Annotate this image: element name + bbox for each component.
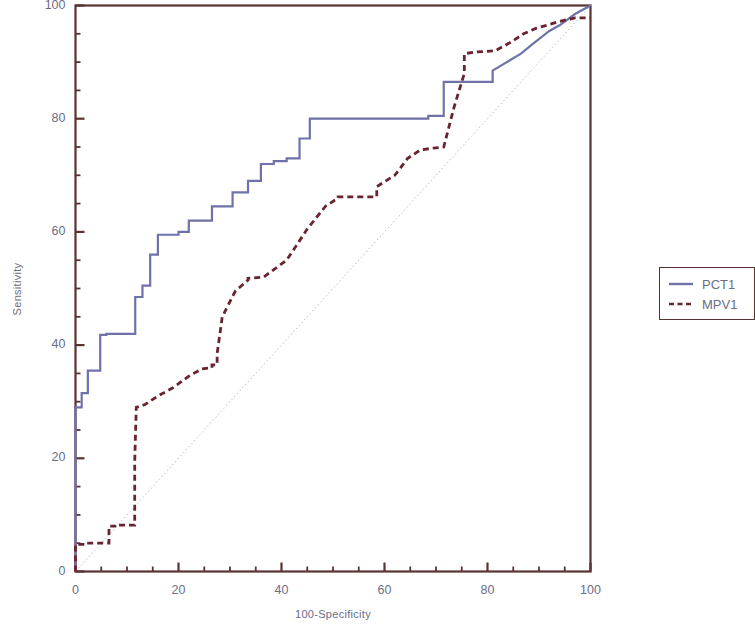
- y-axis-title: Sensitivity: [11, 239, 23, 339]
- x-tick-label: 40: [262, 583, 302, 597]
- y-tick-label: 20: [26, 450, 66, 464]
- legend-label-pct1: PCT1: [702, 278, 735, 291]
- legend-line-swatch-mpv1: [668, 298, 694, 310]
- y-tick-label: 80: [26, 111, 66, 125]
- x-tick-label: 80: [468, 583, 508, 597]
- x-axis-title: 100-Specificity: [0, 608, 666, 620]
- y-tick-label: 60: [26, 224, 66, 238]
- legend-item-pct1: PCT1: [668, 275, 735, 293]
- chart-legend: PCT1 MPV1: [659, 267, 755, 320]
- legend-item-mpv1: MPV1: [668, 295, 737, 313]
- y-tick-label: 100: [26, 0, 66, 12]
- x-tick-label: 20: [159, 583, 199, 597]
- x-tick-label: 0: [56, 583, 96, 597]
- legend-label-mpv1: MPV1: [702, 298, 737, 311]
- y-tick-label: 0: [26, 564, 66, 578]
- x-tick-label: 60: [365, 583, 405, 597]
- x-tick-label: 100: [571, 583, 611, 597]
- y-tick-label: 40: [26, 337, 66, 351]
- legend-line-swatch-pct1: [668, 278, 694, 290]
